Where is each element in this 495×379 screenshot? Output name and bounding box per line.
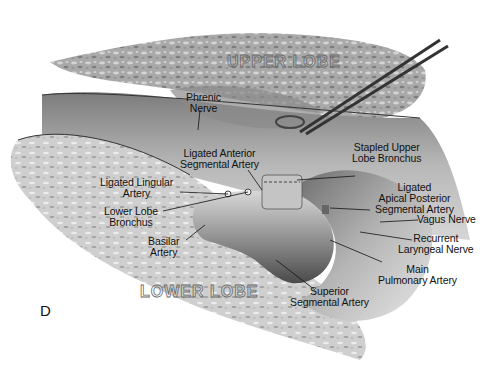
label-stapled-upper-lobe-bronchus: Stapled Upper Lobe Bronchus — [352, 142, 421, 164]
bronchus-stump — [262, 175, 302, 209]
label-main-pulmonary-artery: Main Pulmonary Artery — [378, 264, 457, 286]
panel-letter: D — [40, 302, 51, 319]
label-ligated-lingular-artery: Ligated Lingular Artery — [100, 177, 173, 199]
upper-lobe-label: UPPER LOBE — [227, 53, 341, 71]
label-ligated-anterior-segmental-artery: Ligated Anterior Segmental Artery — [180, 148, 259, 170]
label-basilar-artery: Basilar Artery — [148, 236, 179, 258]
label-ligated-apical-posterior-segmental-artery: Ligated Apical Posterior Segmental Arter… — [375, 182, 454, 215]
label-vagus-nerve: Vagus Nerve — [417, 214, 476, 225]
lower-lobe-label: LOWER LOBE — [140, 283, 258, 301]
label-lower-lobe-bronchus: Lower Lobe Bronchus — [104, 206, 158, 228]
label-superior-segmental-artery: Superior Segmental Artery — [290, 286, 369, 308]
label-phrenic-nerve: Phrenic Nerve — [186, 92, 221, 114]
label-recurrent-laryngeal-nerve: Recurrent Laryngeal Nerve — [398, 233, 474, 255]
